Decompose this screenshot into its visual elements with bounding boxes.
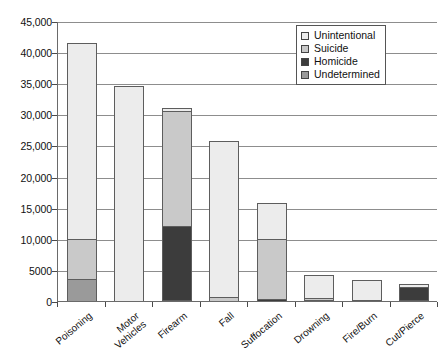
bar-segment[interactable] bbox=[399, 284, 429, 286]
bar-segment[interactable] bbox=[162, 226, 192, 301]
legend-item[interactable]: Homicide bbox=[301, 55, 380, 68]
bar-group bbox=[399, 21, 429, 301]
y-axis-tick-label: 45,000 bbox=[0, 17, 52, 27]
legend-item-label: Unintentional bbox=[314, 30, 375, 41]
legend-item-label: Undetermined bbox=[314, 69, 380, 80]
x-axis-category-label: Fall bbox=[191, 310, 236, 351]
y-axis-tick-label: 20,000 bbox=[0, 173, 52, 183]
x-axis-category-label: Firearm bbox=[143, 310, 188, 351]
x-axis-category-label: Drowning bbox=[286, 310, 331, 351]
bar-segment[interactable] bbox=[257, 239, 287, 299]
bar-segment[interactable] bbox=[399, 287, 429, 301]
bar-segment[interactable] bbox=[209, 141, 239, 297]
x-axis-category-label: Fire/Burn bbox=[333, 310, 378, 351]
bar-stack[interactable] bbox=[399, 21, 429, 301]
legend-item[interactable]: Undetermined bbox=[301, 68, 380, 81]
bar-segment[interactable] bbox=[304, 298, 334, 300]
x-axis-tick-mark bbox=[152, 302, 153, 307]
bar-segment[interactable] bbox=[304, 300, 334, 301]
legend: UnintentionalSuicideHomicideUndetermined bbox=[296, 25, 386, 85]
y-axis-tick-label: 15,000 bbox=[0, 204, 52, 214]
legend-item-label: Homicide bbox=[314, 56, 358, 67]
bar-segment[interactable] bbox=[352, 280, 382, 300]
y-axis-tick-label: 10,000 bbox=[0, 235, 52, 245]
x-axis-tick-mark bbox=[247, 302, 248, 307]
x-axis-category-label: Motor Vehicles bbox=[96, 310, 148, 359]
bar-stack[interactable] bbox=[67, 21, 97, 301]
y-axis-tick-label: 0 bbox=[0, 297, 52, 307]
x-axis-category-label: Cut/Pierce bbox=[381, 310, 426, 351]
stacked-bar-chart: 45,00040,00035,00030,00025,00020,00015,0… bbox=[0, 0, 446, 360]
legend-swatch-icon bbox=[301, 71, 309, 79]
x-axis-tick-mark bbox=[200, 302, 201, 307]
x-axis-category-label: Suffocation bbox=[238, 310, 283, 351]
bar-group bbox=[257, 21, 287, 301]
x-axis-tick-mark bbox=[437, 302, 438, 307]
bar-segment[interactable] bbox=[304, 275, 334, 298]
legend-swatch-icon bbox=[301, 45, 309, 53]
y-axis-tick-label: 25,000 bbox=[0, 141, 52, 151]
bar-segment[interactable] bbox=[209, 297, 239, 301]
bar-stack[interactable] bbox=[162, 21, 192, 301]
bar-group bbox=[162, 21, 192, 301]
x-axis-tick-mark bbox=[295, 302, 296, 307]
bar-stack[interactable] bbox=[114, 21, 144, 301]
x-axis-tick-mark bbox=[57, 302, 58, 307]
x-axis-tick-mark bbox=[105, 302, 106, 307]
legend-item[interactable]: Suicide bbox=[301, 42, 380, 55]
bar-segment[interactable] bbox=[257, 203, 287, 239]
bar-segment[interactable] bbox=[67, 239, 97, 279]
legend-swatch-icon bbox=[301, 32, 309, 40]
legend-item[interactable]: Unintentional bbox=[301, 29, 380, 42]
bar-group bbox=[67, 21, 97, 301]
legend-item-label: Suicide bbox=[314, 43, 348, 54]
bar-stack[interactable] bbox=[257, 21, 287, 301]
x-axis-category-label: Poisoning bbox=[48, 310, 93, 351]
x-axis-tick-mark bbox=[390, 302, 391, 307]
bar-segment[interactable] bbox=[67, 43, 97, 239]
bar-group bbox=[209, 21, 239, 301]
x-axis-tick-mark bbox=[342, 302, 343, 307]
bar-segment[interactable] bbox=[67, 279, 97, 301]
bar-segment[interactable] bbox=[114, 86, 144, 301]
legend-swatch-icon bbox=[301, 58, 309, 66]
y-axis-tick-label: 35,000 bbox=[0, 79, 52, 89]
bar-stack[interactable] bbox=[209, 21, 239, 301]
bar-group bbox=[114, 21, 144, 301]
y-axis-tick-label: 30,000 bbox=[0, 110, 52, 120]
bar-segment[interactable] bbox=[257, 299, 287, 301]
bar-segment[interactable] bbox=[162, 108, 192, 110]
y-axis-tick-label: 40,000 bbox=[0, 48, 52, 58]
bar-segment[interactable] bbox=[162, 111, 192, 226]
y-axis-tick-label: 5000 bbox=[0, 266, 52, 276]
